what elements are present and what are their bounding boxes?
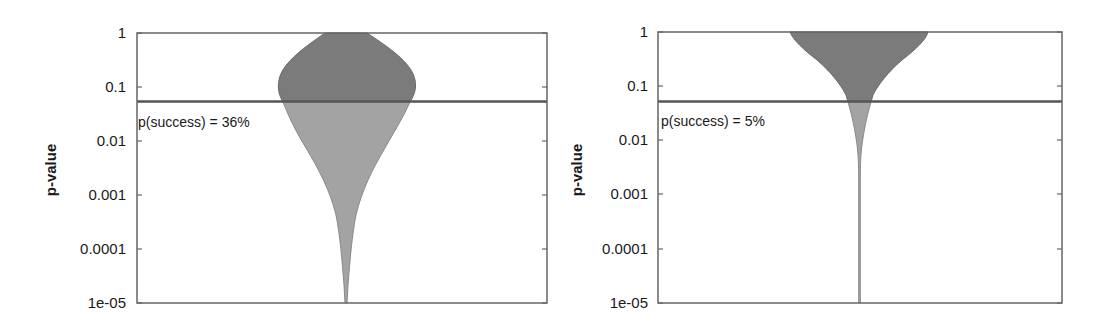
y-tick-label: 0.1	[627, 77, 648, 94]
y-tick-label: 0.001	[610, 185, 648, 202]
violin-lower-region	[848, 102, 871, 303]
violin-upper-region	[790, 32, 928, 102]
success-probability-annotation: p(success) = 5%	[661, 113, 765, 129]
y-tick-label: 0.0001	[602, 240, 648, 257]
chart-panel-right: 1 0.1 0.01 0.001 0.0001 1e-05 p-value p(…	[0, 0, 1102, 330]
y-tick-label: 1	[640, 23, 648, 40]
y-tick-label: 1e-05	[610, 294, 648, 311]
violin-chart-right: 1 0.1 0.01 0.001 0.0001 1e-05 p-value p(…	[0, 0, 1102, 330]
y-axis-label: p-value	[568, 144, 585, 197]
y-tick-label: 0.01	[619, 131, 648, 148]
